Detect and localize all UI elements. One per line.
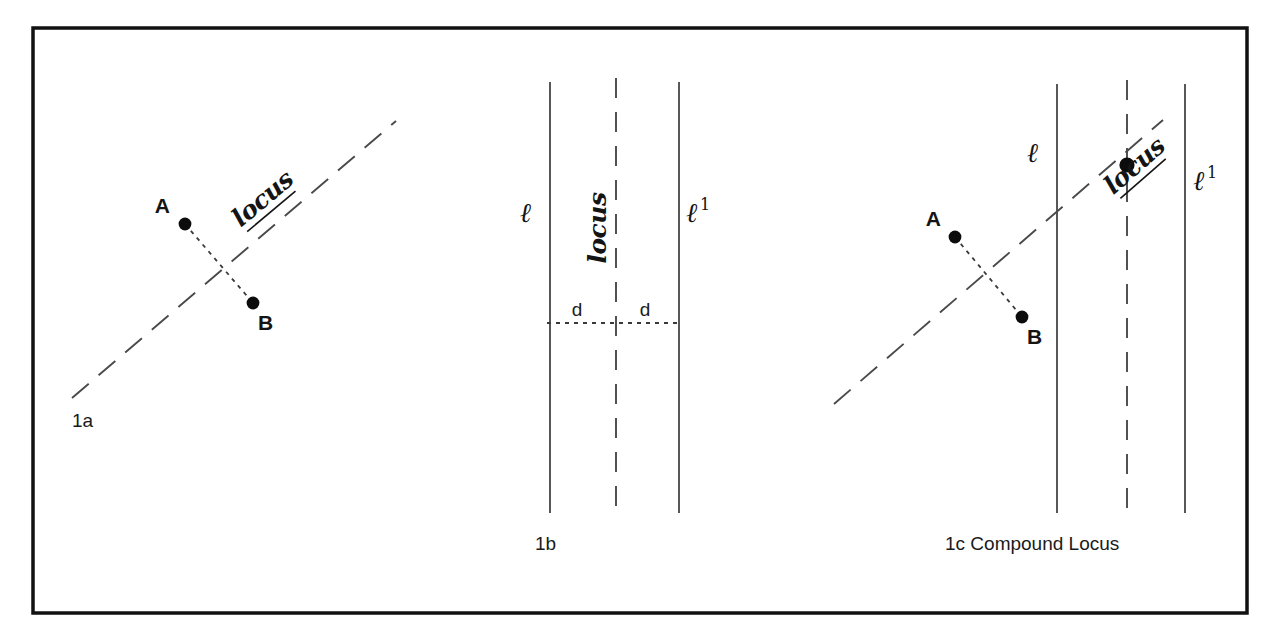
distance-label-left-1b: d (572, 299, 583, 320)
point-a-dot-1a (179, 218, 192, 231)
locus-label-1b: locus (583, 192, 612, 264)
line-l-prime-base-1b: ℓ (686, 197, 698, 228)
point-b-dot-1a (247, 297, 260, 310)
point-a-label-1a: A (155, 194, 170, 217)
caption-1a: 1a (72, 410, 94, 431)
point-b-dot-1c (1016, 311, 1029, 324)
line-l-label-1c: ℓ (1027, 137, 1039, 168)
line-l-label-1b: ℓ (520, 197, 532, 228)
distance-label-right-1b: d (640, 299, 651, 320)
caption-1b: 1b (535, 533, 556, 554)
caption-1c: 1c Compound Locus (945, 533, 1119, 554)
line-l-prime-base-1c: ℓ (1193, 165, 1205, 196)
figure-frame (33, 28, 1247, 613)
point-b-label-1a: B (258, 311, 273, 334)
diagram-canvas: A B locus 1a ℓ ℓ 1 locus d d (0, 0, 1271, 625)
point-a-dot-1c (949, 231, 962, 244)
locus-figure: A B locus 1a ℓ ℓ 1 locus d d (0, 0, 1271, 625)
line-l-prime-sup-1c: 1 (1207, 163, 1217, 182)
point-b-label-1c: B (1027, 325, 1042, 348)
line-l-prime-sup-1b: 1 (700, 195, 710, 214)
point-a-label-1c: A (926, 207, 941, 230)
